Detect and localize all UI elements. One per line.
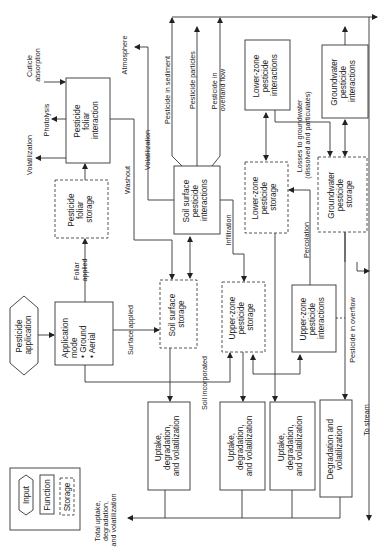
svg-text:Total uptake, degradatio: Total uptake, degradation, and volatiliz… (93, 493, 118, 546)
svg-text:Pesticide in sediment: Pesticide in sediment (163, 56, 172, 124)
legend-function-label: Function (43, 479, 52, 511)
pesticide-fate-diagram: Pesticide application Application mode •… (0, 0, 379, 556)
svg-text:Washout: Washout (123, 166, 132, 194)
node-uptake-1: Uptake, degradation, and volatilization (148, 402, 190, 490)
svg-text:Losses to groundwater (d: Losses to groundwater (dissolved and par… (295, 91, 312, 179)
svg-text:Pesticide particles: Pesticide particles (188, 51, 197, 109)
node-soil-surface-interactions: Soil surface pesticide interactions (174, 166, 220, 234)
svg-text:To stream: To stream (362, 404, 371, 436)
node-foliar-interaction: Pesticide foliar interaction (66, 78, 110, 163)
svg-text:Pesticide in overland fl: Pesticide in overland flow (210, 68, 227, 111)
node-application-mode: Application mode • Ground • Aerial (55, 302, 113, 365)
legend-input-label: Input (22, 485, 31, 504)
svg-text:Foliar applied: Foliar applied (72, 258, 89, 281)
svg-text:Pesticide in overflow: Pesticide in overflow (348, 296, 357, 362)
node-groundwater-interactions: Groundwater pesticide interactions (322, 45, 368, 118)
svg-text:Degradation and volatili: Degradation and volatilization (326, 417, 344, 480)
node-groundwater-storage: Groundwater pesticide storage (318, 157, 367, 232)
svg-text:Infiltration: Infiltration (224, 214, 233, 245)
svg-text:Atmosphere: Atmosphere (120, 36, 129, 75)
svg-text:Pesticide application: Pesticide application (15, 315, 33, 355)
node-lower-zone-storage: Lower-zone pesticide storage (245, 162, 288, 233)
node-soil-surface-storage: Soil surface storage (160, 280, 197, 348)
svg-text:Surface applied: Surface applied (126, 305, 135, 355)
svg-text:Volatilization: Volatilization (25, 135, 34, 175)
node-uptake-3: Uptake, degradation, and volatilization (270, 402, 315, 490)
svg-text:Soil incorporated: Soil incorporated (200, 356, 209, 410)
legend: Input Function Storage (10, 468, 80, 530)
svg-text:Lower-zone pesticide: Lower-zone pesticide interactions (252, 52, 279, 97)
svg-text:Photolysis: Photolysis (42, 103, 51, 136)
node-upper-zone-storage: Upper-zone pesticide storage (222, 282, 265, 352)
svg-text:Cuticle absorption: Cuticle absorption (25, 48, 42, 82)
node-upper-zone-interactions: Upper-zone pesticide interactions (292, 285, 336, 352)
svg-text:Percolation: Percolation (302, 222, 311, 258)
node-degradation: Degradation and volatilization (320, 400, 352, 497)
node-uptake-2: Uptake, degradation, and volatilization (220, 402, 265, 490)
node-foliar-storage: Pesticide foliar storage (55, 180, 108, 238)
node-lower-zone-interactions: Lower-zone pesticide interactions (245, 40, 290, 110)
svg-text:Volatilization: Volatilization (143, 130, 152, 170)
svg-text:Upper-zone pesticide: Upper-zone pesticide interactions (299, 295, 326, 340)
node-pesticide-application: Pesticide application (10, 296, 38, 375)
legend-storage-label: Storage (63, 482, 72, 511)
svg-text:Soil surface pesticide: Soil surface pesticide interactions (182, 177, 209, 222)
